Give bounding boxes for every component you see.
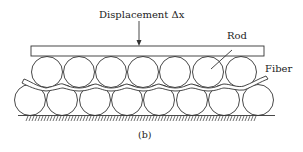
displacement-label: Displacement Δx <box>99 10 184 20</box>
rod-fiber-diagram <box>0 0 303 152</box>
ground-hatching <box>26 116 256 121</box>
rod-pointer-line <box>211 50 232 69</box>
displacement-plate <box>31 46 264 56</box>
top-row-rods <box>32 57 257 88</box>
fiber-label: Fiber <box>265 64 292 74</box>
arrow-head-icon <box>137 40 142 46</box>
rod-label: Rod <box>227 31 247 41</box>
diagram-canvas: Displacement Δx Rod Fiber (b) <box>0 0 303 152</box>
figure-caption: (b) <box>138 130 152 140</box>
